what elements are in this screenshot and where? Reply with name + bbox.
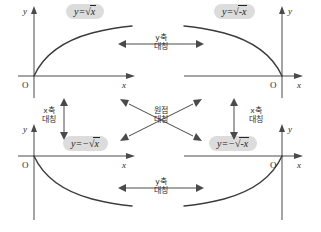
symmetry-label-bottom-line2: 대칭 (131, 186, 191, 195)
origin-label: O (270, 160, 277, 170)
equation-radicand-top-right: -x (238, 5, 248, 17)
symmetry-label-right-line1: x축 (239, 106, 273, 115)
symmetry-label-bottom-line1: y축 (131, 177, 191, 186)
curve-sqrt-x (34, 26, 132, 76)
curve-neg-sqrt-neg-x (184, 156, 282, 206)
y-axis-arrowhead (31, 6, 37, 14)
symmetry-label-top-line2: 대칭 (131, 42, 191, 51)
y-axis-label: y (22, 6, 27, 16)
origin-label: O (270, 80, 277, 90)
y-axis-arrowhead (31, 124, 37, 132)
symmetry-label-top-line1: y축 (131, 33, 191, 42)
y-axis-label: y (22, 124, 27, 134)
y-axis-label: y (287, 124, 292, 134)
x-axis-arrowhead (294, 73, 303, 79)
symmetry-label-bottom: y축 대칭 (131, 177, 191, 195)
equation-label-top-left: y=√x (66, 4, 104, 19)
x-axis-label: x (296, 160, 301, 170)
equation-radicand-bottom-right: -x (239, 137, 249, 149)
curve-neg-sqrt-x (34, 156, 132, 206)
symmetry-label-center: 원점 대칭 (137, 106, 185, 124)
y-axis-label: y (287, 6, 292, 16)
symmetry-label-left-line2: 대칭 (32, 115, 66, 124)
origin-label: O (22, 80, 29, 90)
equation-lhs-top-right: y= (222, 6, 233, 17)
x-axis-arrowhead (126, 153, 135, 159)
equation-lhs-bottom-left: y=− (71, 138, 89, 149)
symmetry-label-left: x축 대칭 (32, 106, 66, 124)
symmetry-label-right-line2: 대칭 (239, 115, 273, 124)
origin-label: O (22, 160, 29, 170)
symmetry-label-center-line2: 대칭 (137, 115, 185, 124)
x-axis-label: x (121, 80, 126, 90)
symmetry-label-top: y축 대칭 (131, 33, 191, 51)
y-axis-arrowhead (279, 124, 285, 132)
curve-sqrt-neg-x (184, 26, 282, 76)
equation-radicand-top-left: x (90, 5, 96, 17)
symmetry-label-left-line1: x축 (32, 106, 66, 115)
x-axis-label: x (121, 160, 126, 170)
symmetry-label-right: x축 대칭 (239, 106, 273, 124)
equation-lhs-top-left: y= (74, 6, 85, 17)
y-axis-arrowhead (279, 6, 285, 14)
equation-radicand-bottom-left: x (93, 137, 99, 149)
x-axis-arrowhead (294, 153, 303, 159)
x-axis-arrowhead (126, 73, 135, 79)
symmetry-label-center-line1: 원점 (137, 106, 185, 115)
x-axis-label: x (296, 80, 301, 90)
equation-label-top-right: y=√-x (214, 4, 255, 19)
